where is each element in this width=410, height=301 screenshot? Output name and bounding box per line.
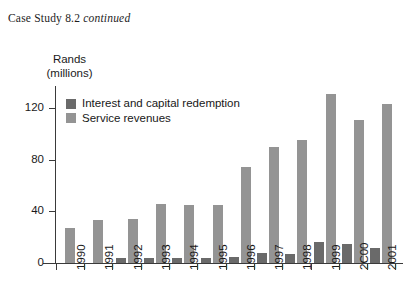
bar	[201, 258, 211, 263]
x-axis-label: 2001	[386, 244, 398, 270]
y-axis-tick-label-wrap: 120	[14, 102, 44, 113]
x-axis-separator	[56, 263, 57, 270]
y-axis-tick-label-wrap: 80	[14, 154, 44, 165]
y-axis-tick-label: 120	[16, 102, 44, 113]
y-axis-title-line2: (millions)	[22, 66, 117, 80]
y-axis-title: Rands (millions)	[22, 52, 117, 80]
x-axis-separator	[84, 263, 85, 270]
x-axis-separator	[254, 263, 255, 270]
x-axis-separator	[197, 263, 198, 270]
x-axis-separator	[282, 263, 283, 270]
x-axis-separator	[367, 263, 368, 270]
bar	[370, 248, 380, 264]
bar	[172, 258, 182, 263]
x-axis-label: 1995	[217, 244, 229, 270]
bar	[229, 257, 239, 263]
y-axis-tick-label: 80	[16, 154, 44, 165]
bar	[382, 104, 392, 263]
x-axis-label: 1999	[330, 244, 342, 270]
x-axis-label: 1993	[160, 244, 172, 270]
x-axis-label: 1998	[301, 244, 313, 270]
bar	[342, 244, 352, 263]
x-axis-separator	[112, 263, 113, 270]
y-axis-tick-label: 0	[16, 257, 44, 268]
y-axis-tick-label-wrap: 40	[14, 205, 44, 216]
bar	[354, 120, 364, 263]
x-axis-separator	[141, 263, 142, 270]
bar	[65, 228, 75, 263]
y-axis-title-line1: Rands	[22, 52, 117, 66]
x-axis-label: 1991	[103, 244, 115, 270]
x-axis-label: 2C00	[358, 243, 370, 271]
bar	[93, 220, 103, 263]
y-axis-tick-label-wrap: 0	[14, 257, 44, 268]
x-axis-label: 1997	[273, 244, 285, 270]
x-axis-label: 1990	[75, 244, 87, 270]
bar-chart: Rands (millions) 04080120 Interest and c…	[0, 0, 410, 301]
bar	[314, 242, 324, 263]
x-axis-separator	[226, 263, 227, 270]
x-axis-label: 1994	[188, 244, 200, 270]
x-axis-separator	[311, 263, 312, 270]
x-axis-separator	[339, 263, 340, 270]
x-axis-separator	[395, 263, 396, 270]
bar	[116, 258, 126, 263]
y-axis-tick-label: 40	[16, 205, 44, 216]
bar	[285, 254, 295, 263]
bar	[144, 258, 154, 263]
bar	[257, 253, 267, 263]
bar	[326, 94, 336, 263]
x-axis-separator	[169, 263, 170, 270]
x-axis-label: 1996	[245, 244, 257, 270]
x-axis-label: 1992	[132, 244, 144, 270]
plot-area	[55, 100, 400, 263]
